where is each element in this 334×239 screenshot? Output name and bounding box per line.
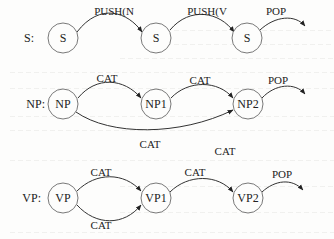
s-node-1-label: S [153, 31, 160, 45]
np-arc-label-np-np1: CAT [97, 72, 118, 84]
np-arc-np-np1 [78, 82, 141, 98]
s-arc-push-vp [170, 14, 234, 32]
np-row-label: NP: [26, 97, 45, 111]
vp-network: VP: CAT CAT CAT POP VP VP1 VP2 [22, 166, 303, 231]
np-arc-label-pop: POP [268, 74, 288, 86]
vp-arc-label-vp1-vp2: CAT [185, 166, 206, 178]
vp-row-label: VP: [22, 191, 41, 205]
np-network: NP: CAT CAT POP CAT CAT NP NP1 NP2 [26, 72, 305, 157]
vp-arc-vp1-vp2 [170, 179, 233, 193]
np-node-np2-label: NP2 [237, 97, 258, 111]
s-arc-label-push-vp: PUSH(V [187, 5, 227, 18]
s-network: S: PUSH(N PUSH(V POP S S S [24, 5, 305, 53]
np-node-np-label: NP [55, 97, 71, 111]
s-arc-label-pop: POP [266, 5, 286, 17]
np-arc-label-np1-np2: CAT [190, 74, 211, 86]
vp-node-vp2-label: VP2 [237, 191, 258, 205]
vp-node-vp-label: VP [55, 191, 71, 205]
np-extra-label: CAT [215, 145, 236, 157]
vp-arc-pop [262, 182, 303, 192]
s-row-label: S: [24, 31, 34, 45]
np-node-np1-label: NP1 [145, 97, 166, 111]
s-node-2-label: S [244, 31, 251, 45]
np-arc-np1-np2 [171, 85, 233, 99]
s-arc-pop [260, 18, 305, 30]
vp-node-vp1-label: VP1 [145, 191, 166, 205]
np-arc-pop [262, 86, 305, 98]
s-arc-label-push-np: PUSH(N [94, 5, 134, 18]
vp-arc-label-lower: CAT [91, 219, 112, 231]
atn-diagram: S: PUSH(N PUSH(V POP S S S NP: CAT CAT P… [0, 0, 334, 239]
diagram-canvas: S: PUSH(N PUSH(V POP S S S NP: CAT CAT P… [0, 0, 334, 239]
s-node-0-label: S [60, 31, 67, 45]
vp-arc-vp-vp1-upper [77, 177, 141, 191]
vp-arc-label-upper: CAT [91, 166, 112, 178]
np-arc-label-np-np2: CAT [140, 138, 161, 150]
vp-arc-label-pop: POP [272, 168, 292, 180]
